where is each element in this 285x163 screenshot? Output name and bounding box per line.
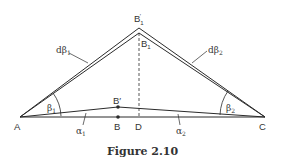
label-beta2: β2 [226, 103, 235, 114]
label-b1-prime: B1′ [134, 13, 144, 26]
label-dbeta1: dβ1 [56, 45, 71, 56]
label-c: C [259, 121, 266, 132]
label-beta1: β1 [47, 103, 56, 114]
label-a: A [14, 121, 21, 132]
label-d: D [135, 121, 142, 132]
leader-dbeta1 [69, 53, 88, 63]
line-a-b1 [20, 33, 139, 117]
label-dbeta2: dβ2 [208, 45, 223, 56]
line-b1-c [139, 33, 265, 117]
point-b [116, 115, 120, 119]
label-alpha1: α1 [76, 126, 86, 137]
figure-caption: Figure 2.10 [0, 145, 285, 158]
label-alpha2: α2 [176, 126, 186, 137]
figure-2-10-diagram: A C B D B′ B1′ B1 β1 β2 α1 α2 dβ1 dβ2 Fi… [0, 0, 285, 163]
line-b1prime-c [139, 28, 265, 117]
leader-dbeta2 [192, 51, 207, 63]
label-b: B [114, 121, 120, 132]
leader-alpha2 [178, 114, 180, 125]
leader-alpha1 [83, 113, 86, 125]
line-a-b1prime [20, 28, 139, 117]
label-b-prime: B′ [113, 95, 121, 106]
